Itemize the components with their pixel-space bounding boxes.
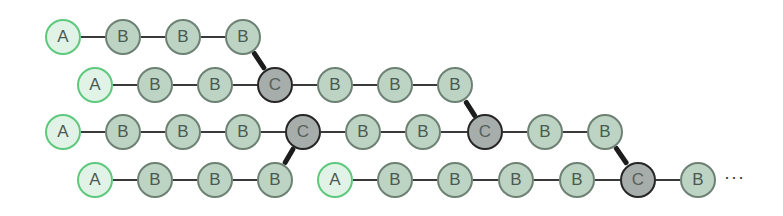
chain-link: [293, 84, 317, 86]
branch-link: [613, 145, 630, 166]
node-c: C: [257, 67, 293, 103]
chain-link: [563, 131, 587, 133]
chain-link: [233, 84, 257, 86]
node-b: B: [437, 67, 473, 103]
node-b: B: [197, 162, 233, 198]
node-c: C: [620, 162, 656, 198]
node-b: B: [498, 162, 534, 198]
node-b: B: [437, 162, 473, 198]
node-c: C: [467, 114, 503, 150]
node-b: B: [137, 162, 173, 198]
node-b: B: [345, 114, 381, 150]
chain-link: [201, 131, 225, 133]
node-b: B: [377, 67, 413, 103]
node-a: A: [45, 19, 81, 55]
node-b: B: [165, 19, 201, 55]
chain-link: [173, 179, 197, 181]
chain-link: [233, 179, 257, 181]
branch-link: [251, 51, 267, 72]
chain-link: [353, 84, 377, 86]
chain-link: [141, 131, 165, 133]
node-b: B: [225, 19, 261, 55]
node-b: B: [405, 114, 441, 150]
continuation-ellipsis: ···: [724, 167, 745, 188]
branch-link: [282, 146, 296, 165]
node-b: B: [137, 67, 173, 103]
chain-link: [173, 84, 197, 86]
chain-link: [595, 179, 620, 181]
node-b: B: [225, 114, 261, 150]
node-b: B: [559, 162, 595, 198]
chain-link: [81, 131, 105, 133]
node-b: B: [105, 114, 141, 150]
node-a: A: [77, 162, 113, 198]
chain-link: [353, 179, 377, 181]
node-a: A: [45, 114, 81, 150]
chain-link: [321, 131, 345, 133]
node-b: B: [587, 114, 623, 150]
chain-link: [141, 36, 165, 38]
node-b: B: [257, 162, 293, 198]
node-b: B: [165, 114, 201, 150]
node-b: B: [105, 19, 141, 55]
chain-link: [534, 179, 559, 181]
branch-link: [463, 99, 478, 118]
node-a: A: [77, 67, 113, 103]
chain-link: [503, 131, 527, 133]
node-b: B: [527, 114, 563, 150]
chain-link: [413, 84, 437, 86]
chain-link: [441, 131, 467, 133]
chain-link: [381, 131, 405, 133]
chain-link: [261, 131, 285, 133]
node-b: B: [680, 162, 716, 198]
chain-diagram: ABBBABBCBBBABBBCBBCBBABBBABBBBCB···: [0, 0, 783, 216]
chain-link: [656, 179, 680, 181]
node-c: C: [285, 114, 321, 150]
node-a: A: [317, 162, 353, 198]
chain-link: [113, 179, 137, 181]
node-b: B: [197, 67, 233, 103]
chain-link: [81, 36, 105, 38]
chain-link: [113, 84, 137, 86]
chain-link: [473, 179, 498, 181]
node-b: B: [377, 162, 413, 198]
chain-link: [201, 36, 225, 38]
chain-link: [413, 179, 437, 181]
node-b: B: [317, 67, 353, 103]
